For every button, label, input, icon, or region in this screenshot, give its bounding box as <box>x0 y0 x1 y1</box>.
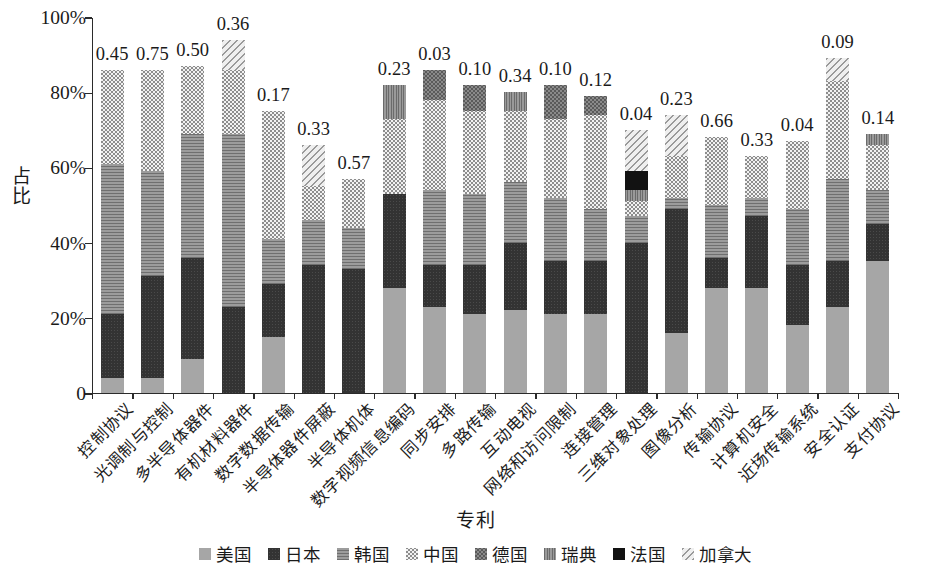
legend-swatch-icon <box>199 548 211 560</box>
bar-stack[interactable] <box>584 96 607 393</box>
bar-value-label: 0.50 <box>176 40 209 61</box>
bar-stack[interactable] <box>665 115 688 393</box>
y-tick <box>85 393 92 394</box>
legend-item-ca[interactable]: 加拿大 <box>682 541 752 566</box>
bar-segment-us <box>705 288 728 393</box>
bar-segment-us <box>383 288 406 393</box>
bar-stack[interactable] <box>302 145 325 393</box>
x-tick <box>898 393 899 399</box>
bar-segment-cn <box>262 111 285 239</box>
bar-segment-se <box>504 92 527 111</box>
bar-segment-us <box>423 307 446 393</box>
bar-segment-cn <box>101 70 124 164</box>
bar-stack[interactable] <box>745 156 768 393</box>
bar-segment-jp <box>181 258 204 360</box>
bar-segment-fr <box>625 171 648 190</box>
bar-segment-ca <box>222 40 245 70</box>
y-tick-label: 60% <box>0 157 86 179</box>
plot-area: 020%40%60%80%100% 0.450.750.500.360.170.… <box>92 18 898 394</box>
bar-segment-cn <box>222 70 245 134</box>
legend-label: 韩国 <box>354 541 389 566</box>
bar-segment-jp <box>141 276 164 378</box>
bar-segment-jp <box>383 194 406 288</box>
bar-segment-us <box>584 314 607 393</box>
bar-segment-se <box>625 190 648 201</box>
bar-stack[interactable] <box>504 92 527 393</box>
bar-stack[interactable] <box>222 40 245 393</box>
legend-item-us[interactable]: 美国 <box>199 541 251 566</box>
legend-label: 美国 <box>216 541 251 566</box>
bar-stack[interactable] <box>423 70 446 393</box>
bar-stack[interactable] <box>866 134 889 393</box>
bar-value-label: 0.23 <box>378 59 411 80</box>
bar-segment-cn <box>342 179 365 228</box>
bar-segment-jp <box>745 216 768 287</box>
bar-value-label: 0.66 <box>700 111 733 132</box>
bar-stack[interactable] <box>544 85 567 393</box>
bar-segment-us <box>504 310 527 393</box>
legend-item-cn[interactable]: 中国 <box>406 541 458 566</box>
y-tick <box>85 318 92 319</box>
legend-item-jp[interactable]: 日本 <box>268 541 320 566</box>
bar-segment-jp <box>423 265 446 306</box>
bar-value-label: 0.57 <box>338 153 371 174</box>
bar-segment-ca <box>302 145 325 186</box>
bar-stack[interactable] <box>826 58 849 393</box>
bar-segment-cn <box>423 100 446 190</box>
legend-item-de[interactable]: 德国 <box>475 541 527 566</box>
bar-segment-kr <box>866 190 889 224</box>
bar-stack[interactable] <box>141 70 164 393</box>
bar-value-label: 0.23 <box>660 89 693 110</box>
bar-segment-ca <box>826 58 849 81</box>
bar-value-label: 0.33 <box>297 119 330 140</box>
chart-page: 占比 020%40%60%80%100% 0.450.750.500.360.1… <box>0 0 951 578</box>
legend-label: 加拿大 <box>699 541 752 566</box>
legend-swatch-icon <box>268 548 280 560</box>
legend-item-fr[interactable]: 法国 <box>613 541 665 566</box>
bar-value-label: 0.10 <box>458 59 491 80</box>
chart-legend: 美国日本韩国中国德国瑞典法国加拿大 <box>0 541 951 566</box>
bar-segment-kr <box>786 209 809 265</box>
bar-segment-jp <box>705 258 728 288</box>
bar-segment-us <box>544 314 567 393</box>
bar-segment-jp <box>625 243 648 393</box>
bar-segment-kr <box>302 220 325 265</box>
bar-stack[interactable] <box>262 111 285 393</box>
bar-stack[interactable] <box>705 137 728 393</box>
bar-segment-cn <box>383 119 406 194</box>
bar-stack[interactable] <box>101 70 124 393</box>
bar-value-label: 0.04 <box>781 115 814 136</box>
bar-segment-de <box>463 85 486 111</box>
bar-segment-us <box>463 314 486 393</box>
bar-value-label: 0.33 <box>741 130 774 151</box>
legend-item-se[interactable]: 瑞典 <box>544 541 596 566</box>
bar-segment-jp <box>101 314 124 378</box>
bar-stack[interactable] <box>786 141 809 393</box>
bar-segment-de <box>584 96 607 115</box>
bar-stack[interactable] <box>625 130 648 393</box>
bar-segment-kr <box>625 216 648 242</box>
bar-stack[interactable] <box>463 85 486 393</box>
bar-segment-kr <box>141 171 164 276</box>
y-tick-label: 80% <box>0 82 86 104</box>
bar-segment-jp <box>262 284 285 337</box>
bar-segment-cn <box>302 186 325 220</box>
bar-stack[interactable] <box>181 66 204 393</box>
bar-segment-se <box>866 134 889 145</box>
bar-segment-se <box>383 85 406 119</box>
legend-label: 日本 <box>285 541 320 566</box>
bar-segment-jp <box>544 261 567 314</box>
x-axis-category-labels: 控制协议光调制与控制多半导体器件有机材料器件数字数据传输半导体器件屏蔽半导体机体… <box>92 396 898 504</box>
bar-stack[interactable] <box>383 85 406 393</box>
legend-item-kr[interactable]: 韩国 <box>337 541 389 566</box>
bar-segment-kr <box>262 239 285 284</box>
y-tick <box>85 93 92 94</box>
bar-stack[interactable] <box>342 179 365 393</box>
bar-segment-kr <box>504 182 527 242</box>
bar-segment-jp <box>504 243 527 311</box>
bar-value-label: 0.14 <box>861 108 894 129</box>
y-tick-label: 100% <box>0 7 86 29</box>
bar-value-label: 0.34 <box>499 66 532 87</box>
bar-value-label: 0.04 <box>620 104 653 125</box>
bar-segment-kr <box>463 194 486 265</box>
